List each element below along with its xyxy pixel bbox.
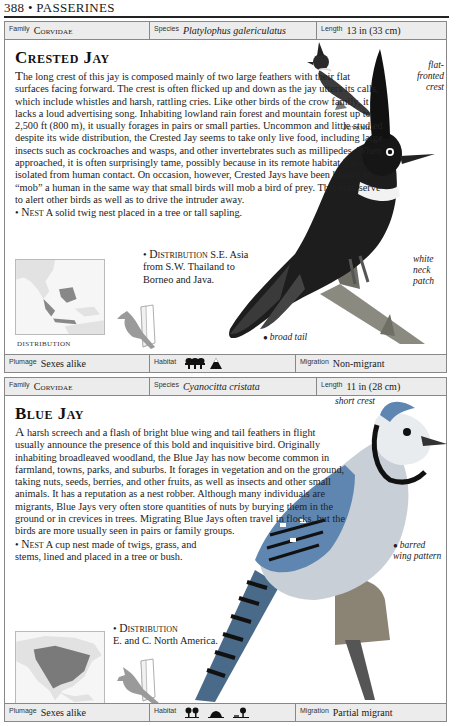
annotation-barred-wing-pattern: ● barred wing pattern <box>393 540 443 562</box>
annotation-text: barred wing pattern <box>393 540 441 561</box>
distribution-text: E. and C. North America. <box>113 635 218 646</box>
species-value: Cyanocitta cristata <box>183 381 260 392</box>
urban-icon <box>233 707 249 718</box>
map-caption: DISTRIBUTION <box>17 340 71 348</box>
species-cell: Species Platylophus galericulatus <box>150 22 317 39</box>
length-label: Length <box>321 378 342 388</box>
plumage-label: Plumage <box>9 704 37 714</box>
distribution-paragraph: • Distribution S.E. Asia from S.W. Thail… <box>143 248 263 286</box>
family-cell: Family Corvidae <box>5 22 150 39</box>
species-cell: Species Cyanocitta cristata <box>150 378 317 395</box>
annotation-flat-fronted-crest: flat-fronted crest <box>410 60 444 93</box>
family-value: Corvidae <box>34 25 73 36</box>
description-text: harsh screech and a flash of bright blue… <box>15 427 345 536</box>
length-cell: Length 13 in (33 cm) <box>317 22 446 39</box>
plumage-label: Plumage <box>9 355 37 365</box>
page-header: 388 • PASSERINES <box>4 0 453 16</box>
migration-value: Non-migrant <box>333 358 385 369</box>
migration-cell: Migration Partial migrant <box>296 704 446 721</box>
mountain-icon <box>210 358 222 369</box>
length-value: 11 in (28 cm) <box>346 381 400 392</box>
deciduous-forest-icon <box>185 707 199 718</box>
species-description: A harsh screech and a flash of bright bl… <box>15 426 345 563</box>
distribution-label: Distribution <box>149 248 208 260</box>
annotation-white-neck-patch: white neck patch <box>413 254 447 287</box>
entry-top-bar: Family Corvidae Species Cyanocitta crist… <box>5 378 446 396</box>
size-comparison-silhouette-icon <box>113 303 168 351</box>
habitat-label: Habitat <box>154 704 176 714</box>
description-text: he long crest of this jay is composed ma… <box>15 71 383 205</box>
habitat-label: Habitat <box>154 355 176 365</box>
nest-label: Nest <box>21 206 44 218</box>
length-label: Length <box>321 22 342 32</box>
entry-bottom-bar: Plumage Sexes alike Habitat Migration Pa… <box>5 703 446 721</box>
habitat-cell: Habitat <box>150 704 296 721</box>
annotation-text: flat-fronted crest <box>417 60 444 92</box>
species-title: Blue Jay <box>15 404 84 424</box>
distribution-paragraph: • Distribution E. and C. North America. <box>113 622 223 648</box>
habitat-cell: Habitat <box>150 355 296 372</box>
entry-top-bar: Family Corvidae Species Platylophus gale… <box>5 22 446 40</box>
annotation-text: short crest <box>335 396 375 406</box>
species-label: Species <box>154 378 179 388</box>
annotation-broad-tail: ● broad tail <box>263 332 343 343</box>
species-value: Platylophus galericulatus <box>183 25 286 36</box>
species-label: Species <box>154 22 179 32</box>
migration-value: Partial migrant <box>333 707 393 718</box>
length-value: 13 in (33 cm) <box>346 25 400 36</box>
species-entry-blue-jay: Family Corvidae Species Cyanocitta crist… <box>4 377 447 722</box>
annotation-text: broad tail <box>270 332 307 342</box>
annotation-dot-icon: ● <box>263 333 270 342</box>
plumage-value: Sexes alike <box>41 707 86 718</box>
nest-text: A solid twig nest placed in a tree or ta… <box>46 207 242 218</box>
species-title: Crested Jay <box>15 48 110 68</box>
migration-cell: Migration Non-migrant <box>296 355 446 372</box>
species-entry-crested-jay: Family Corvidae Species Platylophus gale… <box>4 21 447 373</box>
family-label: Family <box>9 22 30 32</box>
migration-label: Migration <box>300 704 329 714</box>
annotation-short-crest: short crest <box>331 396 375 407</box>
nest-label: Nest <box>21 538 44 550</box>
family-label: Family <box>9 378 30 388</box>
distribution-map-southeast-asia <box>15 259 105 335</box>
distribution-label: Distribution <box>119 622 178 634</box>
annotation-text: white neck patch <box>413 254 434 286</box>
nest-paragraph: • Nest A cup nest made of twigs, grass, … <box>15 538 215 564</box>
migration-label: Migration <box>300 355 329 365</box>
distribution-map-north-america <box>15 631 105 707</box>
header-rule <box>4 16 449 18</box>
grassland-icon <box>208 707 224 718</box>
entry-bottom-bar: Plumage Sexes alike Habitat Migration No… <box>5 354 446 372</box>
plumage-value: Sexes alike <box>41 358 86 369</box>
length-cell: Length 11 in (28 cm) <box>317 378 446 395</box>
plumage-cell: Plumage Sexes alike <box>5 704 150 721</box>
family-cell: Family Corvidae <box>5 378 150 395</box>
annotation-dot-icon: ● <box>393 541 400 550</box>
nest-paragraph: • Nest A solid twig nest placed in a tre… <box>15 206 385 219</box>
plumage-cell: Plumage Sexes alike <box>5 355 150 372</box>
species-description: The long crest of this jay is composed m… <box>15 70 385 220</box>
rainforest-icon <box>185 358 205 369</box>
size-comparison-silhouette-icon <box>113 657 168 705</box>
dropcap: A <box>15 424 24 439</box>
family-value: Corvidae <box>34 381 73 392</box>
dropcap: T <box>15 68 23 83</box>
